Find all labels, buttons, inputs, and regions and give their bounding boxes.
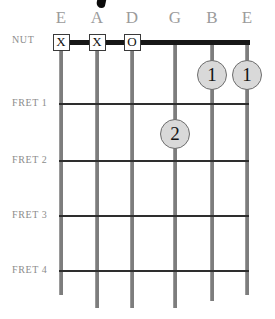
open-marker-string-3: O: [124, 34, 141, 51]
finger-dot-string-5: 1: [197, 60, 227, 90]
fret-label-4: FRET 4: [12, 264, 47, 276]
fret-label-3: FRET 3: [12, 209, 47, 221]
string-line-3: [130, 42, 134, 308]
mute-marker-string-1: X: [53, 34, 70, 51]
fret-line-4: [59, 270, 249, 272]
fret-label-1: FRET 1: [12, 97, 47, 109]
string-label-3: D: [120, 7, 144, 29]
fret-line-2: [59, 160, 249, 162]
chord-diagram: E A D G B E NUT FRET 1 FRET 2 FRET 3 FRE…: [0, 0, 275, 319]
string-line-4: [173, 42, 177, 308]
finger-dot-string-6: 1: [232, 60, 262, 90]
fret-line-3: [59, 215, 249, 217]
fret-label-2: FRET 2: [12, 154, 47, 166]
string-label-5: B: [200, 7, 224, 29]
string-line-1: [59, 42, 63, 295]
nut-bar: [55, 40, 250, 45]
string-line-2: [95, 42, 99, 308]
string-label-6: E: [235, 7, 259, 29]
string-label-1: E: [49, 7, 73, 29]
nut-label: NUT: [12, 34, 34, 46]
string-label-4: G: [163, 7, 187, 29]
fret-line-1: [59, 103, 249, 105]
finger-dot-string-4: 2: [160, 119, 190, 149]
string-label-2: A: [85, 7, 109, 29]
mute-marker-string-2: X: [89, 34, 106, 51]
